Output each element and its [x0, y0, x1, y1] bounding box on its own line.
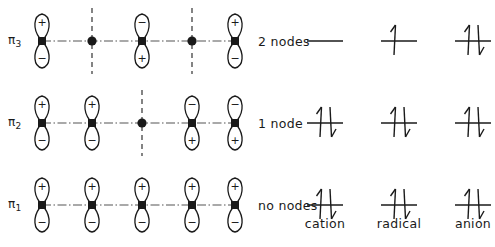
phase-sign-top: +	[37, 180, 46, 193]
electron-config-pi1-radical-glyph	[372, 164, 426, 246]
electron-config-pi3-radical	[372, 0, 426, 82]
phase-sign-bottom: −	[37, 52, 46, 65]
electron-config-pi2-anion-glyph	[446, 82, 495, 164]
spin-down-arrow	[478, 107, 484, 137]
phase-sign-top: −	[137, 16, 146, 29]
atom-center-square	[138, 37, 146, 45]
electron-config-pi2-radical-glyph	[372, 82, 426, 164]
phase-sign-top: +	[137, 180, 146, 193]
phase-sign-top: +	[230, 16, 239, 29]
atom-center-square	[88, 201, 96, 209]
electron-config-pi3-radical-glyph	[372, 0, 426, 82]
phase-sign-top: +	[230, 180, 239, 193]
electron-config-pi1-radical	[372, 164, 426, 246]
atom-center-square	[188, 119, 196, 127]
atom-center-square	[231, 119, 239, 127]
phase-sign-bottom: −	[187, 216, 196, 229]
species-column-label-radical: radical	[362, 216, 436, 231]
spin-down-arrow	[478, 189, 484, 219]
phase-sign-bottom: −	[87, 134, 96, 147]
electron-config-pi1-cation-glyph	[298, 164, 352, 246]
phase-sign-bottom: −	[37, 134, 46, 147]
spin-up-arrow	[465, 107, 470, 137]
spin-up-arrow	[391, 25, 396, 55]
phase-sign-bottom: +	[137, 52, 146, 65]
atom-center-square	[231, 37, 239, 45]
node-center-dot	[87, 36, 96, 45]
spin-up-arrow	[317, 107, 322, 137]
species-column-label-anion: anion	[436, 216, 495, 231]
phase-sign-top: +	[87, 180, 96, 193]
atom-center-square	[88, 119, 96, 127]
atom-center-square	[38, 119, 46, 127]
species-column-label-cation: cation	[288, 216, 362, 231]
spin-down-arrow	[330, 107, 336, 137]
phase-sign-bottom: −	[230, 216, 239, 229]
node-center-dot	[187, 36, 196, 45]
spin-up-arrow	[317, 189, 322, 219]
phase-sign-top: +	[37, 98, 46, 111]
electron-config-pi2-radical	[372, 82, 426, 164]
phase-sign-top: +	[187, 180, 196, 193]
orbital-row-pi2: π2 +−+−−+−+	[0, 82, 250, 164]
electron-config-pi3-anion	[446, 0, 495, 82]
node-count-label-pi2: 1 node	[258, 82, 303, 164]
phase-sign-bottom: −	[137, 216, 146, 229]
spin-up-arrow	[465, 25, 470, 55]
electron-config-pi2-cation-glyph	[298, 82, 352, 164]
nodal-plane-2	[87, 8, 96, 74]
atom-center-square	[138, 201, 146, 209]
spin-up-arrow	[391, 189, 396, 219]
electron-config-pi3-anion-glyph	[446, 0, 495, 82]
spin-up-arrow	[465, 189, 470, 219]
phase-sign-top: −	[187, 98, 196, 111]
atom-center-square	[38, 37, 46, 45]
phase-sign-bottom: −	[87, 216, 96, 229]
electron-config-pi3-cation	[298, 0, 352, 82]
spin-down-arrow	[404, 107, 410, 137]
atom-center-square	[188, 201, 196, 209]
phase-sign-top: −	[230, 98, 239, 111]
orbital-diagram-pi3: +−−++−	[0, 0, 250, 82]
electron-config-pi1-anion-glyph	[446, 164, 495, 246]
orbital-row-pi3: π3 +−−++−	[0, 0, 250, 82]
atom-center-square	[38, 201, 46, 209]
atom-center-square	[231, 201, 239, 209]
spin-down-arrow	[404, 189, 410, 219]
spin-down-arrow	[330, 189, 336, 219]
electron-config-pi3-cation-glyph	[298, 0, 352, 82]
phase-sign-top: +	[37, 16, 46, 29]
electron-config-pi1-anion	[446, 164, 495, 246]
electron-config-pi2-anion	[446, 82, 495, 164]
orbital-row-pi1: π1 +−+−+−+−+−	[0, 164, 250, 246]
node-center-dot	[137, 118, 146, 127]
phase-sign-bottom: +	[187, 134, 196, 147]
spin-down-arrow	[478, 25, 484, 55]
orbital-diagram-pi1: +−+−+−+−+−	[0, 164, 250, 246]
nodal-plane-4	[187, 8, 196, 74]
phase-sign-bottom: +	[230, 134, 239, 147]
phase-sign-bottom: −	[230, 52, 239, 65]
phase-sign-top: +	[87, 98, 96, 111]
orbital-diagram-pi2: +−+−−+−+	[0, 82, 250, 164]
electron-config-pi1-cation	[298, 164, 352, 246]
spin-up-arrow	[391, 107, 396, 137]
phase-sign-bottom: −	[37, 216, 46, 229]
nodal-plane-3	[137, 90, 146, 156]
electron-config-pi2-cation	[298, 82, 352, 164]
